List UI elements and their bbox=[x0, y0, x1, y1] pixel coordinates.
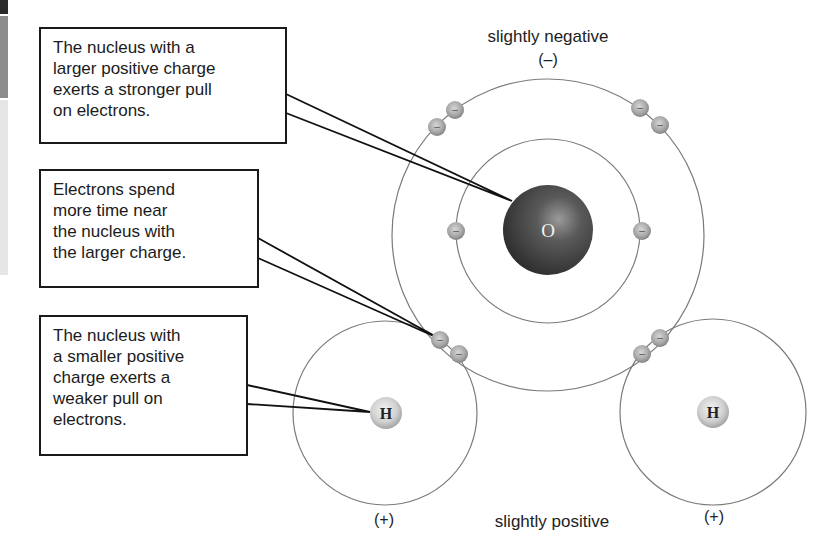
svg-text:–: – bbox=[637, 102, 643, 113]
callout-line: The nucleus with a bbox=[53, 37, 275, 58]
callout-line: the nucleus with bbox=[53, 221, 247, 242]
leader-smaller-charge bbox=[247, 385, 370, 412]
svg-text:–: – bbox=[434, 121, 440, 132]
slightly-positive-label: slightly positive bbox=[462, 512, 642, 532]
svg-text:–: – bbox=[453, 225, 459, 236]
electron: – bbox=[651, 329, 669, 347]
oxygen-symbol: O bbox=[541, 220, 555, 241]
right-positive-sign-label: (+) bbox=[694, 508, 734, 526]
leader-larger-charge bbox=[286, 94, 512, 201]
svg-text:–: – bbox=[639, 225, 645, 236]
callout-electrons-time: Electrons spend more time near the nucle… bbox=[39, 169, 259, 288]
hydrogen-right-nucleus: H bbox=[697, 396, 729, 428]
callout-line: on electrons. bbox=[53, 100, 275, 121]
svg-text:–: – bbox=[456, 348, 462, 359]
hydrogen-left-symbol: H bbox=[380, 405, 393, 422]
electron: – bbox=[651, 116, 669, 134]
callout-line: a smaller positive bbox=[53, 346, 236, 367]
electron: – bbox=[633, 345, 651, 363]
hydrogen-left-nucleus: H bbox=[370, 397, 402, 429]
svg-text:–: – bbox=[657, 119, 663, 130]
callout-line: the larger charge. bbox=[53, 242, 247, 263]
callout-line: charge exerts a bbox=[53, 367, 236, 388]
electron: – bbox=[633, 222, 651, 240]
svg-text:–: – bbox=[657, 332, 663, 343]
callout-line: more time near bbox=[53, 200, 247, 221]
leader-electrons-time bbox=[258, 238, 438, 338]
electron: – bbox=[431, 331, 449, 349]
electron: – bbox=[450, 345, 468, 363]
callout-larger-charge: The nucleus with a larger positive charg… bbox=[39, 27, 287, 144]
callout-line: larger positive charge bbox=[53, 58, 275, 79]
electron: – bbox=[447, 222, 465, 240]
electron: – bbox=[631, 99, 649, 117]
callout-line: The nucleus with bbox=[53, 325, 236, 346]
callout-line: Electrons spend bbox=[53, 179, 247, 200]
oxygen-nucleus: O bbox=[503, 185, 593, 275]
slightly-negative-label: slightly negative bbox=[458, 27, 638, 47]
negative-sign-label: (–) bbox=[528, 51, 568, 69]
callout-line: exerts a stronger pull bbox=[53, 79, 275, 100]
svg-text:–: – bbox=[437, 334, 443, 345]
svg-text:–: – bbox=[639, 348, 645, 359]
orbits bbox=[293, 79, 806, 505]
electron: – bbox=[446, 101, 464, 119]
callout-line: weaker pull on bbox=[53, 388, 236, 409]
svg-text:–: – bbox=[452, 104, 458, 115]
left-positive-sign-label: (+) bbox=[364, 511, 404, 529]
electron: – bbox=[428, 118, 446, 136]
callout-line: electrons. bbox=[53, 409, 236, 430]
hydrogen-right-symbol: H bbox=[707, 404, 720, 421]
callout-smaller-charge: The nucleus with a smaller positive char… bbox=[39, 315, 248, 456]
